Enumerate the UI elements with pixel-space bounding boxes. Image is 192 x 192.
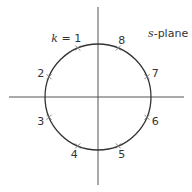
- pole-label: 6: [152, 115, 159, 128]
- pole-label: 7: [152, 67, 159, 80]
- pole-label: 4: [71, 148, 78, 161]
- plane-label: s-plane: [148, 27, 188, 40]
- pole-label: k = 1: [51, 32, 81, 45]
- pole-label: 5: [118, 148, 125, 161]
- pole-label: 2: [37, 67, 44, 80]
- pole-label: 3: [37, 115, 44, 128]
- pole-label: 8: [118, 34, 125, 47]
- s-plane-diagram: k = 12345678 s-plane: [0, 0, 192, 192]
